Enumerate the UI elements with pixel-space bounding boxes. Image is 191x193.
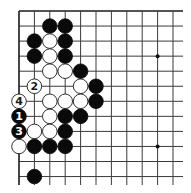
- black-stone: [43, 139, 58, 154]
- move-number-label: 1: [15, 110, 23, 123]
- white-stone-icon: [43, 124, 58, 139]
- move-number-label: 4: [15, 95, 23, 108]
- black-stone: [27, 169, 42, 184]
- black-stone-icon: [73, 109, 88, 124]
- stones: 2413: [12, 19, 104, 184]
- star-point-icon: [156, 144, 160, 148]
- white-stone-icon: [27, 124, 42, 139]
- white-stone: [73, 94, 88, 109]
- white-stone-icon: [73, 94, 88, 109]
- black-stone: [89, 94, 104, 109]
- black-stone-icon: [89, 79, 104, 94]
- move-number-label: 2: [31, 80, 39, 93]
- black-stone: [58, 19, 73, 34]
- black-stone-icon: [58, 109, 73, 124]
- white-stone-icon: [73, 79, 88, 94]
- black-stone-icon: [43, 19, 58, 34]
- white-stone-icon: [43, 109, 58, 124]
- numbered-white-stone: 2: [27, 79, 42, 94]
- numbered-white-stone: 4: [12, 94, 27, 109]
- white-stone: [43, 94, 58, 109]
- white-stone: [27, 124, 42, 139]
- black-stone: [73, 109, 88, 124]
- white-stone: [73, 79, 88, 94]
- white-stone: [43, 34, 58, 49]
- white-stone: [43, 64, 58, 79]
- black-stone-icon: [58, 124, 73, 139]
- black-stone: [58, 34, 73, 49]
- move-number-label: 3: [15, 125, 23, 138]
- white-stone: [43, 124, 58, 139]
- black-stone: [58, 109, 73, 124]
- black-stone: [27, 34, 42, 49]
- white-stone-icon: [43, 64, 58, 79]
- black-stone-icon: [27, 49, 42, 64]
- black-stone-icon: [58, 34, 73, 49]
- white-stone-icon: [43, 34, 58, 49]
- black-stone: [27, 139, 42, 154]
- black-stone: [27, 49, 42, 64]
- black-stone-icon: [89, 94, 104, 109]
- white-stone-icon: [12, 139, 27, 154]
- black-stone-icon: [27, 139, 42, 154]
- black-stone-icon: [43, 139, 58, 154]
- white-stone: [43, 49, 58, 64]
- black-stone: [58, 49, 73, 64]
- black-stone-icon: [27, 169, 42, 184]
- go-board-diagram: 2413: [0, 0, 191, 193]
- white-stone-icon: [58, 64, 73, 79]
- white-stone-icon: [43, 49, 58, 64]
- star-point-icon: [156, 54, 160, 58]
- black-stone: [58, 139, 73, 154]
- numbered-black-stone: 1: [12, 109, 27, 124]
- black-stone-icon: [73, 64, 88, 79]
- black-stone: [89, 79, 104, 94]
- black-stone-icon: [58, 19, 73, 34]
- black-stone-icon: [58, 139, 73, 154]
- black-stone-icon: [27, 34, 42, 49]
- white-stone: [12, 139, 27, 154]
- black-stone: [43, 19, 58, 34]
- black-stone-icon: [58, 49, 73, 64]
- white-stone: [43, 109, 58, 124]
- white-stone-icon: [58, 94, 73, 109]
- black-stone: [58, 124, 73, 139]
- white-stone-icon: [43, 94, 58, 109]
- numbered-black-stone: 3: [12, 124, 27, 139]
- white-stone: [58, 94, 73, 109]
- black-stone: [73, 64, 88, 79]
- white-stone: [58, 64, 73, 79]
